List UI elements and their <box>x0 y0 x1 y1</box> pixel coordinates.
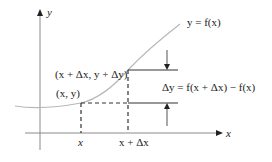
lower-point-label: (x, y) <box>56 87 80 100</box>
x-axis-label: x <box>225 127 231 139</box>
tick-label-x: x <box>77 136 83 148</box>
x-axis-arrow-icon <box>216 130 223 136</box>
tick-label-x-plus-dx: x + Δx <box>119 136 149 148</box>
curve-label: y = f(x) <box>187 16 221 29</box>
y-axis-arrow-icon <box>37 9 43 16</box>
y-axis-label: y <box>46 6 52 18</box>
delta-y-formula: Δy = f(x + Δx) − f(x) <box>162 81 256 94</box>
upper-point-label: (x + Δx, y + Δy) <box>55 68 128 81</box>
diagram-canvas: y x y = f(x) (x + Δx, y + Δy) (x, y) Δy … <box>0 0 272 162</box>
delta-y-down-arrow-icon <box>164 64 170 70</box>
delta-y-up-arrow-icon <box>164 103 170 109</box>
